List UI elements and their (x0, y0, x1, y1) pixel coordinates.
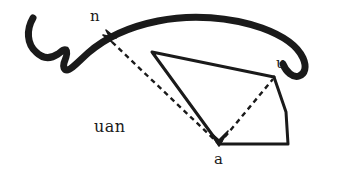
vertex-label-a: a (214, 152, 223, 167)
dashed-line-n-to-a (112, 42, 219, 144)
brush-arc-stroke (28, 17, 305, 76)
figure-canvas: n u a uan (0, 0, 341, 182)
quadrilateral-solid-edges (219, 77, 288, 144)
hand-drawn-geometry-figure (0, 0, 341, 182)
dashed-line-a-to-u (219, 79, 273, 144)
vertex-label-n: n (90, 9, 100, 24)
vertex-label-u: u (276, 56, 286, 71)
figure-caption-uan: uan (94, 119, 125, 135)
